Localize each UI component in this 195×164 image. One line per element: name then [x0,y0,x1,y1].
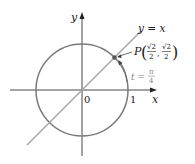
point-x-denominator: 2 [149,53,153,61]
x-axis-arrow-icon [150,88,157,93]
tick-one-label: 1 [130,94,136,105]
t-denominator: 4 [149,77,154,85]
point-y-denominator: 2 [164,53,168,61]
line-label: y = x [137,22,165,34]
t-label: t = [131,72,145,82]
unit-circle-diagram: y x 0 1 y = x P ( √2 2 , √2 2 ) t = π 4 [0,0,195,164]
paren-close: ) [172,43,178,62]
point-x-numerator: √2 [147,43,156,51]
diagram-canvas: y x 0 1 y = x P ( √2 2 , √2 2 ) t = π 4 [0,0,195,164]
x-axis-label: x [152,93,159,106]
line-y-equals-x [27,31,141,145]
point-y-numerator: √2 [162,43,171,51]
t-numerator: π [149,68,154,76]
origin-label: 0 [84,94,90,105]
point-p [112,55,116,59]
y-axis-label: y [70,11,78,24]
y-axis-arrow-icon [80,12,85,19]
comma: , [157,49,160,58]
